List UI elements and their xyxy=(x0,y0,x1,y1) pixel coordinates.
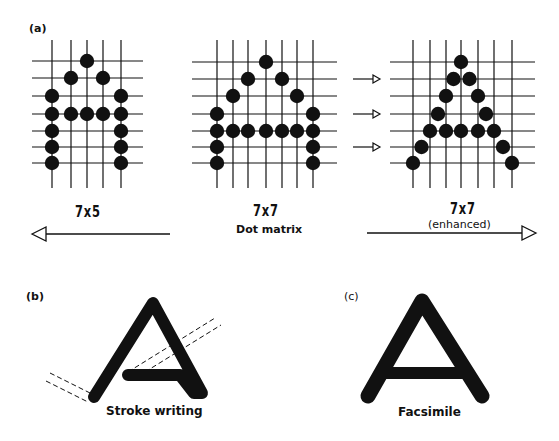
shift-arrow-icon xyxy=(353,75,380,83)
matrix-dot xyxy=(64,107,78,121)
matrix-dot xyxy=(462,72,476,86)
matrix-dot xyxy=(306,140,320,154)
matrix-dot xyxy=(210,156,224,170)
grid-7x7-dot-matrix xyxy=(192,40,337,188)
matrix-dot xyxy=(45,156,59,170)
matrix-dot xyxy=(96,71,110,85)
matrix-dot xyxy=(80,107,94,121)
matrix-dot xyxy=(210,107,224,121)
matrix-dot xyxy=(306,124,320,138)
matrix-dot xyxy=(306,107,320,121)
matrix-dot xyxy=(114,156,128,170)
matrix-dot xyxy=(439,124,453,138)
matrix-dot xyxy=(114,89,128,103)
matrix-dot xyxy=(114,124,128,138)
matrix-dot xyxy=(45,107,59,121)
half-dot-shift-arrows xyxy=(353,75,380,151)
matrix-dot xyxy=(241,124,255,138)
label-7x5: 7x5 xyxy=(75,203,101,221)
label-7x7-enhanced: 7x7 xyxy=(450,200,476,218)
label-7x7: 7x7 xyxy=(253,202,279,220)
matrix-dot xyxy=(259,124,273,138)
matrix-dot xyxy=(275,124,289,138)
matrix-dot xyxy=(290,124,304,138)
facsimile-letter-a xyxy=(368,301,482,396)
panel-c-tag: (c) xyxy=(344,290,359,303)
shift-arrow-icon xyxy=(353,143,380,151)
matrix-dot xyxy=(210,124,224,138)
panel-a-tag: (a) xyxy=(29,22,46,35)
matrix-dot xyxy=(114,107,128,121)
matrix-dot xyxy=(471,89,485,103)
caption-facsimile: Facsimile xyxy=(398,405,461,419)
grid-7x5 xyxy=(32,40,143,188)
label-enhanced: (enhanced) xyxy=(428,218,491,231)
matrix-dot xyxy=(414,140,428,154)
shift-arrow-icon xyxy=(353,110,380,118)
matrix-dot xyxy=(431,107,445,121)
matrix-dot xyxy=(45,89,59,103)
matrix-dot xyxy=(259,55,273,69)
stroke-writing-letter-a xyxy=(46,303,221,402)
matrix-dot xyxy=(446,72,460,86)
matrix-dot xyxy=(454,124,468,138)
matrix-dot xyxy=(45,140,59,154)
matrix-dot xyxy=(226,89,240,103)
matrix-dot xyxy=(471,124,485,138)
matrix-dot xyxy=(496,140,510,154)
matrix-dot xyxy=(114,140,128,154)
caption-stroke-writing: Stroke writing xyxy=(106,404,203,418)
matrix-dot xyxy=(454,55,468,69)
matrix-dot xyxy=(406,156,420,170)
matrix-dot xyxy=(290,89,304,103)
matrix-dot xyxy=(210,140,224,154)
matrix-dot xyxy=(439,89,453,103)
matrix-dot xyxy=(423,124,437,138)
matrix-dot xyxy=(479,107,493,121)
matrix-dot xyxy=(275,72,289,86)
matrix-dot xyxy=(80,54,94,68)
matrix-dot xyxy=(96,107,110,121)
panel-b-tag: (b) xyxy=(26,290,44,303)
matrix-dot xyxy=(306,156,320,170)
matrix-dot xyxy=(505,156,519,170)
matrix-dot xyxy=(241,72,255,86)
matrix-dot xyxy=(226,124,240,138)
matrix-dot xyxy=(487,124,501,138)
arrow-left-icon xyxy=(32,227,170,241)
matrix-dot xyxy=(64,71,78,85)
grid-7x7-enhanced xyxy=(390,40,535,188)
label-dot-matrix: Dot matrix xyxy=(236,223,302,236)
matrix-dot xyxy=(45,124,59,138)
